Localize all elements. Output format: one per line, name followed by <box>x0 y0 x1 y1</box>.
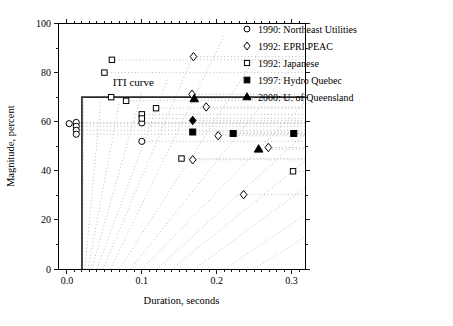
legend-label: 2000: U. of Queensland <box>258 92 354 103</box>
x-axis-title: Duration, seconds <box>144 295 220 306</box>
x-tick-label: 0.0 <box>61 275 74 286</box>
data-point <box>230 130 236 136</box>
y-tick-label: 60 <box>41 116 51 127</box>
data-point <box>240 190 247 198</box>
legend-item: 1992: EPRI PEAC <box>244 41 333 52</box>
y-tick-label: 20 <box>41 214 51 225</box>
y-tick-label: 80 <box>41 67 51 78</box>
fan-guide-line <box>157 134 305 269</box>
legend: 1990: Northeast Utilities1992: EPRI PEAC… <box>243 24 357 103</box>
fan-guide-line <box>88 102 119 269</box>
fan-guide-line <box>254 237 305 269</box>
legend-item: 1992: Japanese <box>244 58 319 69</box>
legend-marker-diamond <box>244 42 250 50</box>
scatter-chart: 0.00.10.20.3020406080100Duration, second… <box>0 0 453 326</box>
legend-label: 1992: Japanese <box>258 58 319 69</box>
series-0 <box>66 119 145 144</box>
y-tick-label: 40 <box>41 165 51 176</box>
legend-label: 1997: Hydro Quebec <box>258 75 342 86</box>
fan-guide-line <box>85 102 101 269</box>
legend-marker-square <box>244 60 249 65</box>
data-point <box>254 145 263 152</box>
data-point <box>179 156 184 161</box>
data-point <box>66 121 72 127</box>
iti-curve-label: ITI curve <box>113 76 154 88</box>
data-point <box>290 169 295 174</box>
data-point <box>190 52 197 60</box>
y-tick-label: 0 <box>46 264 51 275</box>
data-point <box>203 103 210 111</box>
data-point <box>102 70 107 75</box>
data-point <box>291 130 297 136</box>
y-tick-label: 100 <box>36 18 51 29</box>
legend-marker-square <box>244 77 250 83</box>
data-point <box>108 94 113 99</box>
legend-item: 2000: U. of Queensland <box>243 92 354 103</box>
fan-guide-line <box>172 161 305 269</box>
x-tick-label: 0.3 <box>285 275 298 286</box>
fan-guide-line <box>224 215 305 269</box>
fan-guide-line <box>83 102 84 269</box>
legend-label: 1992: EPRI PEAC <box>258 41 333 52</box>
data-point <box>215 131 222 139</box>
data-point <box>189 156 196 164</box>
fan-guide-line <box>194 188 305 269</box>
data-point <box>123 98 128 103</box>
legend-item: 1990: Northeast Utilities <box>244 24 357 35</box>
fan-guide-line <box>92 92 142 269</box>
data-point <box>153 105 158 110</box>
x-tick-label: 0.2 <box>210 275 223 286</box>
legend-item: 1997: Hydro Quebec <box>244 75 342 86</box>
data-point <box>73 131 79 137</box>
iti-sag-figure: 0.00.10.20.3020406080100Duration, second… <box>0 0 453 326</box>
data-point <box>109 57 114 62</box>
fan-guide-line <box>142 102 305 269</box>
y-axis-title: Magnitude, percent <box>5 105 16 187</box>
legend-marker-circle <box>244 26 250 32</box>
x-tick-label: 0.1 <box>136 275 149 286</box>
data-point <box>139 116 144 121</box>
fan-guide-line <box>110 36 224 269</box>
data-point <box>139 138 145 144</box>
legend-label: 1990: Northeast Utilities <box>258 24 357 35</box>
data-point <box>265 143 272 151</box>
data-point <box>190 129 196 135</box>
